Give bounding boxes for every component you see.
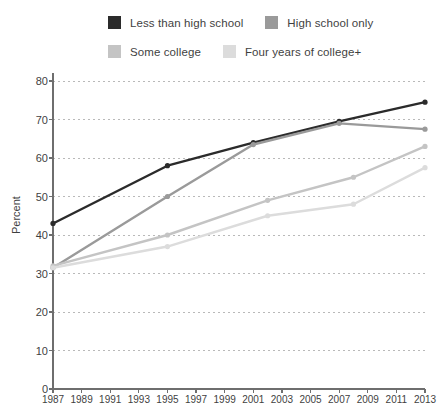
line-chart: Less than high school High school only S…	[0, 0, 437, 419]
x-tick-label: 2011	[386, 394, 408, 405]
x-tick-label: 2003	[271, 394, 293, 405]
legend-swatch-icon	[265, 16, 278, 29]
x-tick-label: 2009	[357, 394, 379, 405]
x-tick-label: 1991	[99, 394, 121, 405]
legend-swatch-icon	[223, 45, 236, 58]
x-tick-label: 1997	[185, 394, 207, 405]
chart-legend: Less than high school High school only S…	[0, 0, 437, 70]
legend-swatch-icon	[108, 45, 121, 58]
plot-area: Percent 01020304050607080 19871989199119…	[0, 68, 437, 419]
legend-entry-some-college[interactable]: Some college	[108, 45, 201, 58]
x-tick-label: 1987	[42, 394, 64, 405]
x-tick-label: 2007	[328, 394, 350, 405]
x-tick-label: 2013	[414, 394, 436, 405]
legend-entry-high-school-only[interactable]: High school only	[265, 16, 373, 29]
x-tick-label: 1999	[214, 394, 236, 405]
x-tick-label: 1989	[70, 394, 92, 405]
legend-row: Some college Four years of college+	[108, 45, 383, 58]
legend-row: Less than high school High school only	[108, 16, 395, 29]
legend-label: High school only	[287, 17, 373, 29]
x-tick-label: 2005	[299, 394, 321, 405]
legend-entry-less-than-high-school[interactable]: Less than high school	[108, 16, 243, 29]
plot-svg	[0, 68, 437, 419]
x-tick-label: 1995	[156, 394, 178, 405]
x-tick-label: 2001	[242, 394, 264, 405]
legend-label: Four years of college+	[245, 46, 361, 58]
x-tick-label: 1993	[128, 394, 150, 405]
legend-swatch-icon	[108, 16, 121, 29]
legend-label: Less than high school	[130, 17, 243, 29]
legend-label: Some college	[130, 46, 201, 58]
legend-entry-four-years-of-college[interactable]: Four years of college+	[223, 45, 361, 58]
